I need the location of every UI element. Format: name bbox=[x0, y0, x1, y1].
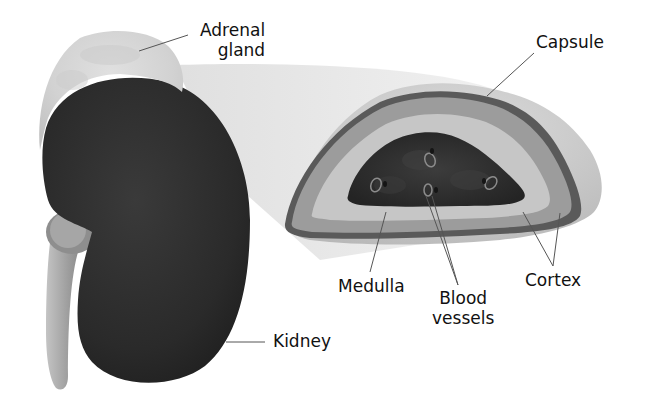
label-adrenal-line1: Adrenal bbox=[200, 20, 265, 40]
label-medulla: Medulla bbox=[338, 276, 405, 296]
label-blood-line2: vessels bbox=[432, 308, 494, 328]
label-capsule: Capsule bbox=[536, 32, 604, 52]
label-kidney: Kidney bbox=[273, 331, 331, 351]
label-adrenal-gland: Adrenal gland bbox=[200, 20, 265, 60]
leader-capsule bbox=[487, 53, 534, 96]
label-adrenal-line2: gland bbox=[200, 40, 265, 60]
label-blood-line1: Blood bbox=[432, 288, 494, 308]
label-blood-vessels: Blood vessels bbox=[432, 288, 494, 328]
label-cortex: Cortex bbox=[525, 270, 581, 290]
